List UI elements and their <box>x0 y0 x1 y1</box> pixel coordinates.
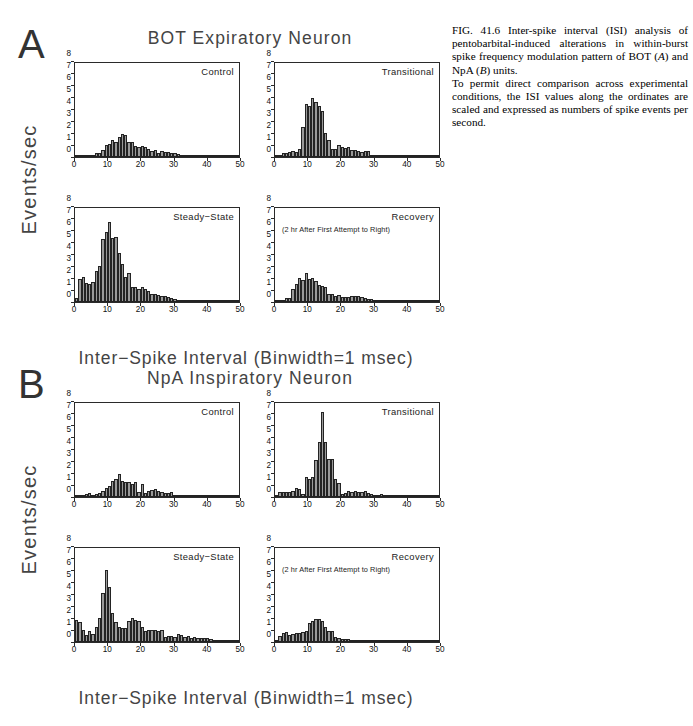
chart-a-control: 01234567801020304050Control <box>48 56 248 184</box>
y-axis-tick-label: 2 <box>266 267 271 275</box>
histogram-bar <box>436 495 439 497</box>
y-axis-tick-label: 2 <box>66 607 71 615</box>
x-axis-tick-label: 30 <box>169 646 178 654</box>
y-axis-tick-mark <box>271 97 274 98</box>
y-axis-tick-label: 1 <box>66 619 71 627</box>
y-axis-tick-label: 1 <box>66 279 71 287</box>
x-axis-tick-label: 0 <box>272 306 277 314</box>
x-axis-tick-label: 20 <box>136 306 145 314</box>
y-axis-tick-label: 6 <box>266 414 271 422</box>
x-axis-tick-label: 0 <box>72 161 77 169</box>
x-axis-tick-label: 40 <box>202 161 211 169</box>
y-axis-tick-mark <box>271 230 274 231</box>
x-axis-tick-label: 40 <box>202 306 211 314</box>
y-axis-tick-label: 0 <box>66 631 71 639</box>
x-axis-tick-label: 30 <box>369 306 378 314</box>
y-axis-tick-label: 1 <box>66 474 71 482</box>
y-axis-tick-mark <box>271 85 274 86</box>
histogram-bar <box>436 155 439 157</box>
panel-b-ylabel: Events/sec <box>18 405 41 635</box>
y-axis-tick-mark <box>71 473 74 474</box>
y-axis-tick-mark <box>71 594 74 595</box>
caption-p1-italic-b: B <box>480 64 487 76</box>
panel-b-title: NpA Inspiratory Neuron <box>60 368 440 389</box>
y-axis-tick-label: 6 <box>66 559 71 567</box>
y-axis-tick-label: 2 <box>66 462 71 470</box>
plot-area: 01234567801020304050Control <box>74 62 240 158</box>
y-axis-tick-label: 7 <box>66 62 71 70</box>
y-axis-tick-mark <box>71 449 74 450</box>
x-axis-tick-mark <box>407 498 408 501</box>
x-axis-tick-mark <box>440 158 441 161</box>
y-axis-tick-mark <box>271 630 274 631</box>
x-axis-tick-mark <box>274 158 275 161</box>
y-axis-tick-mark <box>271 401 274 402</box>
y-axis-tick-mark <box>271 254 274 255</box>
histogram-bars <box>275 548 439 642</box>
y-axis-tick-label: 7 <box>66 207 71 215</box>
y-axis-tick-label: 1 <box>266 474 271 482</box>
x-axis-tick-label: 20 <box>336 306 345 314</box>
y-axis-tick-mark <box>71 413 74 414</box>
y-axis-tick-mark <box>71 133 74 134</box>
chart-a-transitional: 01234567801020304050Transitional <box>248 56 448 184</box>
y-axis-tick-label: 6 <box>266 559 271 567</box>
y-axis-tick-label: 7 <box>266 207 271 215</box>
x-axis-tick-mark <box>74 158 75 161</box>
x-axis-tick-mark <box>340 158 341 161</box>
y-axis-tick-label: 1 <box>266 134 271 142</box>
histogram-bars <box>75 403 239 497</box>
x-axis-tick-label: 0 <box>272 646 277 654</box>
panel-b-letter: B <box>18 364 45 404</box>
histogram-bar <box>236 495 239 497</box>
y-axis-tick-label: 8 <box>266 390 271 398</box>
y-axis-tick-label: 5 <box>66 571 71 579</box>
y-axis-tick-label: 8 <box>266 50 271 58</box>
y-axis-tick-mark <box>271 266 274 267</box>
y-axis-tick-mark <box>271 606 274 607</box>
caption-p1-post: ) units. <box>487 64 518 76</box>
x-axis-tick-label: 40 <box>402 646 411 654</box>
x-axis-tick-label: 40 <box>202 646 211 654</box>
y-axis-tick-label: 4 <box>266 243 271 251</box>
chart-a-steady-state: 01234567801020304050Steady−State <box>48 201 248 329</box>
y-axis-tick-label: 3 <box>66 450 71 458</box>
y-axis-tick-mark <box>71 230 74 231</box>
y-axis-tick-label: 8 <box>66 535 71 543</box>
x-axis-tick-mark <box>407 643 408 646</box>
y-axis-tick-label: 8 <box>266 195 271 203</box>
x-axis-tick-label: 20 <box>136 161 145 169</box>
y-axis-tick-label: 6 <box>66 74 71 82</box>
y-axis-tick-label: 0 <box>266 631 271 639</box>
y-axis-tick-mark <box>71 582 74 583</box>
y-axis-tick-label: 0 <box>266 486 271 494</box>
x-axis-tick-mark <box>340 303 341 306</box>
y-axis-tick-label: 3 <box>66 595 71 603</box>
x-axis-tick-mark <box>174 498 175 501</box>
condition-sublabel: (2 hr After First Attempt to Right) <box>282 225 390 234</box>
y-axis-tick-mark <box>71 425 74 426</box>
y-axis-tick-mark <box>271 473 274 474</box>
x-axis-tick-label: 30 <box>369 161 378 169</box>
y-axis-tick-label: 7 <box>266 402 271 410</box>
y-axis-tick-mark <box>71 266 74 267</box>
x-axis-tick-label: 0 <box>72 501 77 509</box>
y-axis-tick-label: 4 <box>266 438 271 446</box>
y-axis-tick-mark <box>71 485 74 486</box>
y-axis-tick-mark <box>71 254 74 255</box>
condition-label: Recovery <box>392 551 434 562</box>
y-axis-tick-label: 8 <box>266 535 271 543</box>
x-axis-tick-mark <box>440 643 441 646</box>
x-axis-tick-mark <box>407 303 408 306</box>
y-axis-tick-label: 0 <box>266 146 271 154</box>
caption-p1-italic-a: A <box>658 50 665 62</box>
plot-area: 01234567801020304050Steady−State <box>74 207 240 303</box>
x-axis-tick-mark <box>140 303 141 306</box>
y-axis-tick-mark <box>271 558 274 559</box>
x-axis-tick-mark <box>274 303 275 306</box>
histogram-bars <box>275 208 439 302</box>
x-axis-tick-mark <box>307 303 308 306</box>
y-axis-tick-label: 4 <box>66 98 71 106</box>
x-axis-tick-label: 40 <box>402 306 411 314</box>
y-axis-tick-label: 6 <box>66 219 71 227</box>
